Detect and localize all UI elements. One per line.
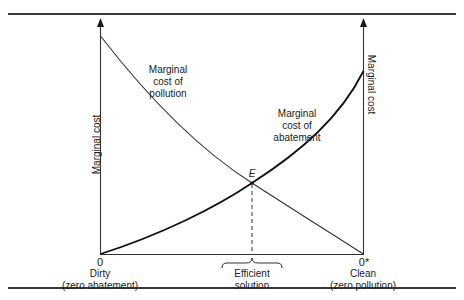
right-y-axis-label: Marginal cost: [366, 45, 377, 125]
pollution-curve-label: Marginal cost of pollution: [138, 64, 198, 100]
clean-label: Clean (zero pollution): [318, 268, 408, 292]
left-origin-label: 0: [94, 256, 106, 268]
intersection-point-e: [250, 181, 253, 184]
left-y-axis-label: Marginal cost: [91, 105, 102, 185]
right-origin-label: 0*: [356, 256, 372, 268]
left-axis-arrow-icon: [97, 18, 104, 27]
efficient-solution-brace: [222, 258, 282, 268]
efficient-solution-label: Efficient solution: [222, 268, 282, 292]
abatement-curve-label: Marginal cost of abatement: [264, 108, 330, 144]
intersection-label-e: E: [246, 168, 258, 180]
diagram-canvas: [0, 0, 464, 300]
right-axis-arrow-icon: [360, 18, 367, 27]
dirty-label: Dirty (zero abatement): [55, 268, 145, 292]
